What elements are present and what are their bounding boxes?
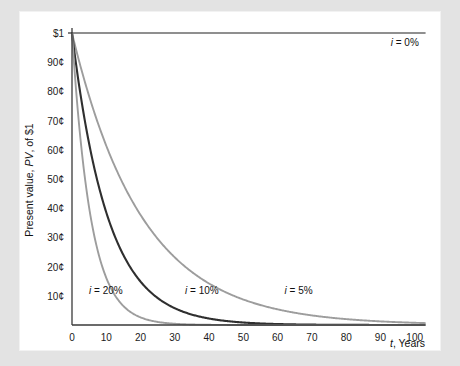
curve-0.2 (72, 33, 425, 325)
x-tick-40: 40 (204, 332, 216, 343)
curve-0.05 (72, 33, 425, 323)
x-tick-70: 70 (306, 332, 318, 343)
curve-0.1 (72, 33, 425, 325)
series-annotations: i = 0%i = 5%i = 10%i = 20% (89, 37, 419, 296)
x-tick-60: 60 (272, 332, 284, 343)
series-label-0.2: i = 20% (89, 285, 123, 296)
figure-container: 0102030405060708090100 $190¢80¢70¢60¢50¢… (0, 0, 460, 366)
y-tick-60¢: 60¢ (47, 145, 64, 156)
x-tick-20: 20 (135, 332, 147, 343)
y-tick-50¢: 50¢ (47, 174, 64, 185)
axes (68, 28, 425, 325)
series-label-0: i = 0% (391, 37, 419, 48)
y-axis-title: Present value, PV, of $1 (23, 123, 35, 236)
x-tick-50: 50 (238, 332, 250, 343)
y-tick-80¢: 80¢ (47, 86, 64, 97)
x-tick-10: 10 (101, 332, 113, 343)
y-tick-40¢: 40¢ (47, 203, 64, 214)
y-tick-$1: $1 (53, 28, 65, 39)
series-label-0.05: i = 5% (285, 285, 313, 296)
y-tick-70¢: 70¢ (47, 116, 64, 127)
y-tick-10¢: 10¢ (47, 291, 64, 302)
x-tick-30: 30 (169, 332, 181, 343)
series-label-0.1: i = 10% (185, 285, 219, 296)
x-tick-0: 0 (69, 332, 75, 343)
x-axis-title: t, Years (390, 337, 425, 349)
x-tick-80: 80 (341, 332, 353, 343)
y-tick-20¢: 20¢ (47, 262, 64, 273)
x-tick-90: 90 (375, 332, 387, 343)
x-axis-tick-labels: 0102030405060708090100 (69, 332, 423, 343)
y-tick-90¢: 90¢ (47, 57, 64, 68)
y-axis-tick-labels: $190¢80¢70¢60¢50¢40¢30¢20¢10¢ (47, 28, 64, 302)
y-tick-30¢: 30¢ (47, 232, 64, 243)
series-curves (72, 33, 425, 325)
chart-plot: 0102030405060708090100 $190¢80¢70¢60¢50¢… (0, 0, 460, 366)
